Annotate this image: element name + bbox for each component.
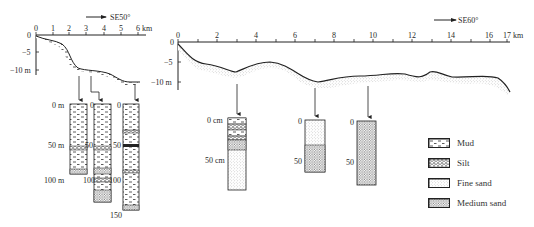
core-depth-label: 0 xyxy=(90,101,94,110)
core-depth-label: 100 m xyxy=(44,176,64,185)
core-depth-label: 0 xyxy=(117,101,121,110)
right-x-tick: 10 xyxy=(369,31,377,40)
right-x-tick: 6 xyxy=(293,31,297,40)
left-x-tick: 5 xyxy=(119,24,123,33)
left-x-tick: 3 xyxy=(84,24,88,33)
left-y-tick: −5 xyxy=(22,48,31,57)
medium-sand-pattern-icon xyxy=(428,198,450,208)
right-y-tick: −5 xyxy=(164,58,173,67)
left-x-tick: 1 xyxy=(51,24,55,33)
silt-pattern-icon xyxy=(428,158,450,168)
right-x-tick: 0 xyxy=(176,31,180,40)
core-depth-label: 100 xyxy=(83,176,95,185)
core-depth-label: 0 xyxy=(298,117,302,126)
core-depth-label: 0 xyxy=(350,118,354,127)
left-direction-label: SE50° xyxy=(110,13,131,22)
core-2 xyxy=(94,104,111,202)
core-depth-label: 50 m xyxy=(48,141,64,150)
legend-item-mud: Mud xyxy=(428,138,534,150)
legend-item-fine-sand: Fine sand xyxy=(428,178,534,190)
legend-item-medium-sand: Medium sand xyxy=(428,198,534,210)
right-x-tick: 12 xyxy=(408,31,416,40)
fine-sand-pattern-icon xyxy=(428,178,450,188)
legend-item-silt: Silt xyxy=(428,158,534,170)
core-depth-label: 0 cm xyxy=(207,116,223,125)
right-direction-label: SE60° xyxy=(458,16,479,25)
left-x-tick: 2 xyxy=(67,24,71,33)
mud-pattern-icon xyxy=(428,138,450,148)
core-5 xyxy=(305,120,325,172)
left-x-tick: 4 xyxy=(102,24,106,33)
right-x-tick: 17 km xyxy=(503,31,523,40)
left-y-tick: 0 xyxy=(27,31,31,40)
core-6 xyxy=(357,121,376,185)
left-x-tick: 0 xyxy=(34,24,38,33)
core-4 xyxy=(228,118,246,190)
core-depth-label: 100 xyxy=(109,176,121,185)
right-y-tick: 0 xyxy=(170,38,174,47)
core-depth-label: 50 xyxy=(85,141,93,150)
core-1 xyxy=(70,104,87,174)
right-y-tick: −10 m xyxy=(151,78,172,87)
core-depth-label: 50 cm xyxy=(205,156,225,165)
core-depth-label: 50 xyxy=(346,158,354,167)
right-x-tick: 14 xyxy=(447,31,455,40)
right-x-tick: 16 xyxy=(485,31,493,40)
core-depth-label: 50 xyxy=(113,141,121,150)
core-depth-label: 150 xyxy=(110,211,122,220)
core-depth-label: 0 m xyxy=(52,101,64,110)
left-x-tick: 6 km xyxy=(136,24,152,33)
right-x-tick: 8 xyxy=(332,31,336,40)
core-3 xyxy=(123,104,139,210)
right-x-tick: 4 xyxy=(254,31,258,40)
left-y-tick: −10 m xyxy=(10,66,31,75)
right-x-tick: 2 xyxy=(215,31,219,40)
core-depth-label: 50 xyxy=(294,157,302,166)
